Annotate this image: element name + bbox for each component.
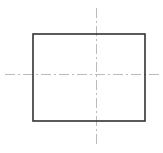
- technical-drawing: [0, 0, 163, 153]
- rectangle-outline: [33, 34, 145, 121]
- drawing-canvas: [0, 0, 163, 153]
